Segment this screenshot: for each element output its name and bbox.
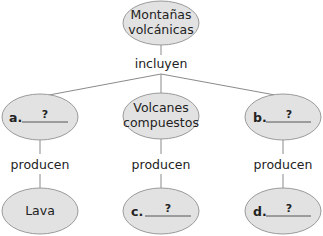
link-label-incluyen: incluyen (135, 56, 188, 71)
link-label-producen-b: producen (254, 157, 313, 172)
node-b: b. ? (245, 94, 321, 140)
link-label-producen-a: producen (11, 157, 70, 172)
root-label-line1: Montañas (130, 7, 191, 22)
node-a: a. ? (2, 94, 78, 140)
node-volcanes-compuestos: Volcanes compuestos (123, 93, 199, 139)
node-c-letter: c. (131, 204, 143, 219)
connector-incluyen-a (49, 74, 161, 95)
node-volcanes-line2: compuestos (123, 115, 199, 130)
node-a-question: ? (42, 108, 48, 121)
node-d: d. ? (245, 188, 321, 234)
concept-map: Montañas volcánicas incluyen a. ? Volcan… (0, 0, 323, 236)
node-d-letter: d. (253, 204, 267, 219)
node-lava-label: Lava (25, 203, 55, 218)
node-lava: Lava (2, 188, 78, 234)
connector-incluyen-b (161, 74, 275, 95)
node-c-question: ? (165, 202, 171, 215)
root-label-line2: volcánicas (128, 22, 194, 37)
node-b-question: ? (286, 108, 292, 121)
node-c: c. ? (123, 188, 199, 234)
node-b-letter: b. (253, 110, 267, 125)
node-d-question: ? (286, 202, 292, 215)
node-root: Montañas volcánicas (123, 1, 199, 45)
node-volcanes-line1: Volcanes (133, 100, 188, 115)
link-label-producen-volcanes: producen (132, 157, 191, 172)
node-a-letter: a. (9, 110, 22, 125)
